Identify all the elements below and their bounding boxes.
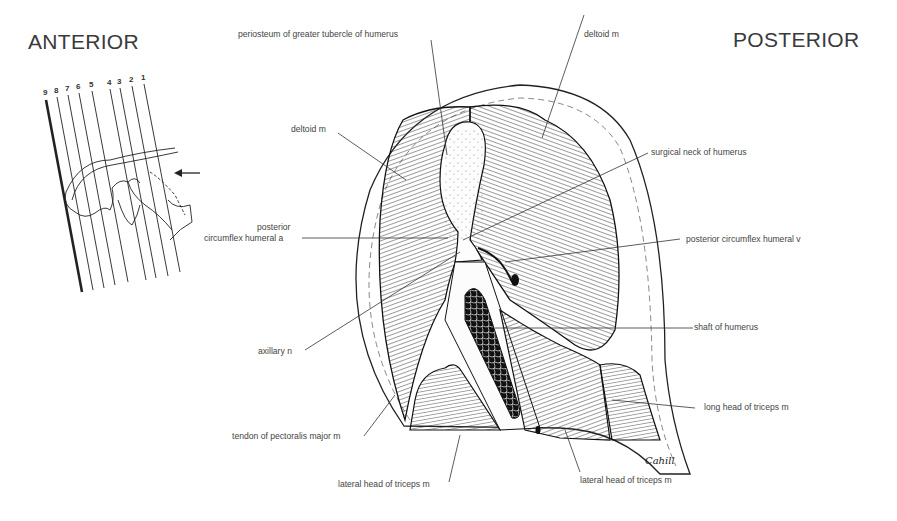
label-posterior-circumflex-a-line2: circumflex humeral a [204, 233, 283, 244]
label-tendon-pectoralis-major: tendon of pectoralis major m [232, 431, 340, 442]
label-long-head-triceps: long head of triceps m [704, 402, 789, 413]
section-number-2: 2 [129, 75, 133, 84]
label-posterior-circumflex-v: posterior circumflex humeral v [686, 234, 801, 245]
label-periosteum-greater-tubercle: periosteum of greater tubercle of humeru… [238, 29, 398, 40]
label-lateral-head-triceps-left: lateral head of triceps m [338, 479, 430, 490]
section-number-1: 1 [141, 73, 145, 82]
label-posterior-circumflex-a-line1: posterior [257, 222, 290, 233]
section-number-3: 3 [117, 77, 121, 86]
section-number-5: 5 [89, 80, 93, 89]
label-axillary-nerve: axillary n [258, 346, 292, 357]
section-number-8: 8 [54, 86, 58, 95]
label-surgical-neck: surgical neck of humerus [651, 147, 747, 158]
label-deltoid-top: deltoid m [584, 29, 619, 40]
label-deltoid-left: deltoid m [291, 124, 326, 135]
section-lines-diagram [46, 84, 200, 292]
artist-signature: Cahill [645, 455, 675, 466]
section-number-6: 6 [76, 82, 80, 91]
label-shaft-of-humerus: shaft of humerus [694, 322, 758, 333]
section-number-7: 7 [65, 84, 69, 93]
section-number-9: 9 [43, 88, 47, 97]
label-lateral-head-triceps-right: lateral head of triceps m [580, 475, 672, 486]
cross-section-illustration [0, 0, 897, 521]
section-number-4: 4 [107, 78, 111, 87]
